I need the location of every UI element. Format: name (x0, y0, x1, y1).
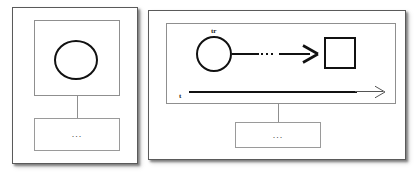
left-panel-child-box: ... (34, 118, 120, 151)
right-panel: tr (148, 10, 406, 160)
right-panel-child-box: ... (235, 122, 321, 148)
time-axis-arrowhead-icon (374, 85, 388, 99)
edge-arrowhead-svg (301, 44, 321, 64)
right-panel-square-node (324, 37, 356, 69)
left-panel-connector (77, 96, 78, 118)
circle-node-label-text: tr (211, 27, 216, 35)
diagram-canvas: ... tr (0, 0, 417, 174)
edge-dot (266, 53, 268, 55)
time-axis-line (189, 91, 357, 93)
edge-dots (261, 53, 273, 55)
right-panel-child-box-label: ... (273, 131, 284, 140)
left-panel: ... (12, 7, 138, 164)
edge-arrowhead-icon (301, 44, 321, 64)
right-panel-connector (278, 104, 279, 122)
edge-dot (271, 53, 273, 55)
edge-dot (261, 53, 263, 55)
left-panel-circle-node (54, 40, 98, 80)
time-axis-arrowhead-svg (374, 85, 388, 99)
right-panel-circle-node (196, 36, 232, 72)
time-axis-label: t (179, 93, 181, 100)
edge-segment-left (232, 53, 259, 55)
left-panel-child-box-label: ... (72, 130, 83, 139)
right-panel-circle-node-label: tr (211, 28, 216, 35)
time-axis-label-text: t (179, 92, 181, 100)
